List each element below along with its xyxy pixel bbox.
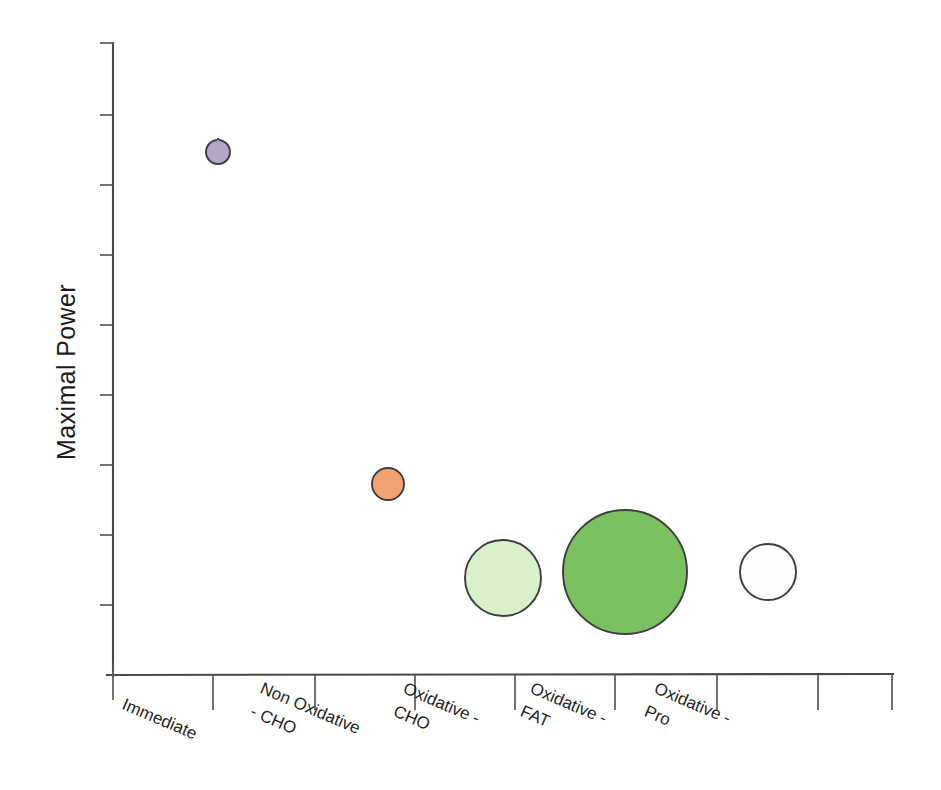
bubble-chart: Maximal Power Immediate Non Oxidative - … — [0, 0, 941, 790]
bubble-non-oxidative-cho[interactable] — [372, 468, 404, 500]
bubble-oxidative-fat[interactable] — [563, 510, 687, 634]
bubble-oxidative-pro[interactable] — [740, 544, 796, 600]
bubble-oxidative-cho[interactable] — [465, 540, 541, 616]
y-axis-title: Maximal Power — [52, 284, 81, 460]
plot-area — [0, 0, 941, 790]
y-tick-group — [100, 43, 113, 605]
bubble-immediate[interactable] — [206, 140, 230, 164]
x-axis-line — [107, 674, 893, 675]
x-tick-group — [113, 663, 892, 710]
bubble-group — [206, 140, 796, 634]
